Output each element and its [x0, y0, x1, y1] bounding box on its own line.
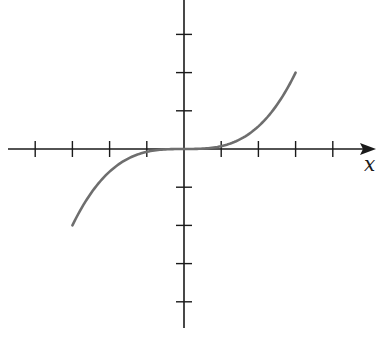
- chart-area: x: [0, 0, 383, 350]
- x-axis-label: x: [364, 152, 375, 176]
- plot-svg: [0, 0, 383, 350]
